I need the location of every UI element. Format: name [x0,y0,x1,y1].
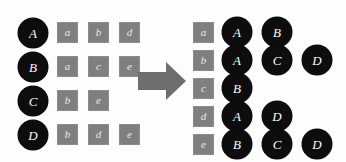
left-key-circle-D: D [18,120,48,150]
right-key-square-d: d [193,106,214,127]
left-value-square: d [88,124,109,145]
right-arrow-icon [138,61,186,101]
left-key-circle-A: A [18,18,48,48]
left-value-square: d [119,22,140,43]
left-key-circle-B: B [18,52,48,82]
right-value-circle: A [222,101,252,131]
left-value-square: a [57,56,78,77]
right-value-circle: B [222,129,252,159]
right-key-square-e: e [193,134,214,155]
left-value-square: e [88,90,109,111]
left-value-square: b [88,22,109,43]
right-value-circle: C [262,129,292,159]
left-value-square: e [119,56,140,77]
right-key-square-c: c [193,78,214,99]
right-value-circle: A [222,17,252,47]
left-value-square: c [88,56,109,77]
right-value-circle: D [302,129,332,159]
right-value-circle: A [222,45,252,75]
right-value-circle: D [262,101,292,131]
right-value-circle: B [262,17,292,47]
left-value-square: b [57,90,78,111]
left-value-square: e [119,124,140,145]
left-value-square: a [57,22,78,43]
right-key-square-a: a [193,22,214,43]
right-value-circle: B [222,73,252,103]
left-key-circle-C: C [18,86,48,116]
right-key-square-b: b [193,50,214,71]
left-value-square: b [57,124,78,145]
mapping-inversion-diagram: A B C D a b d a c e b e b d e a b c d e … [0,0,346,162]
right-value-circle: C [262,45,292,75]
right-value-circle: D [302,45,332,75]
